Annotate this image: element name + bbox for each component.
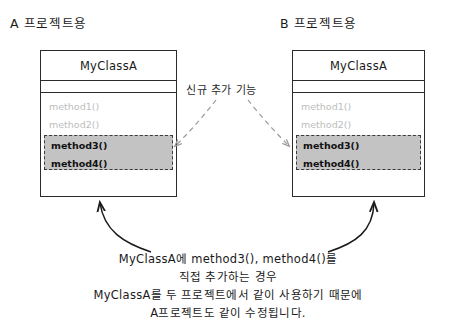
method-item: method3() [51,136,172,154]
method-item: method2() [301,116,424,134]
added-methods-highlight-a: method3() method4() [44,135,173,170]
method-item: method4() [51,154,172,172]
method-item: method1() [301,98,424,116]
added-methods-highlight-b: method3() method4() [296,135,421,170]
section-title-a: A 프로젝트용 [10,13,87,32]
class-name-row-b: MyClassA [293,51,424,81]
attribute-compartment-a [41,81,176,93]
method-item: method4() [303,154,420,172]
caption-line: A프로젝트도 같이 수정됩니다. [0,304,456,320]
caption-line: MyClassA를 두 프로젝트에서 같이 사용하기 때문에 [0,286,456,302]
new-feature-label: 신규 추가 기능 [186,81,257,97]
class-name-b: MyClassA [330,59,387,73]
diagram-canvas: A 프로젝트용 B 프로젝트용 MyClassA method1() metho… [0,0,456,332]
callout-arrow-right [328,203,374,252]
class-box-a: MyClassA method1() method2() method3() m… [40,50,177,197]
method-item: method1() [49,98,176,116]
attribute-compartment-b [293,81,424,93]
section-title-b: B 프로젝트용 [280,13,357,32]
caption-line: 직접 추가하는 경우 [0,268,456,284]
class-box-b: MyClassA method1() method2() method3() m… [292,50,425,197]
method-item: method3() [303,136,420,154]
dashed-connector-right [248,100,289,146]
callout-arrow-left [100,203,151,252]
caption-line: MyClassA에 method3(), method4()를 [0,250,456,266]
method-compartment-a: method1() method2() method3() method4() [41,93,176,201]
class-name-a: MyClassA [80,59,137,73]
dashed-connector-left [175,100,216,146]
method-item: method2() [49,116,176,134]
class-name-row-a: MyClassA [41,51,176,81]
method-compartment-b: method1() method2() method3() method4() [293,93,424,201]
